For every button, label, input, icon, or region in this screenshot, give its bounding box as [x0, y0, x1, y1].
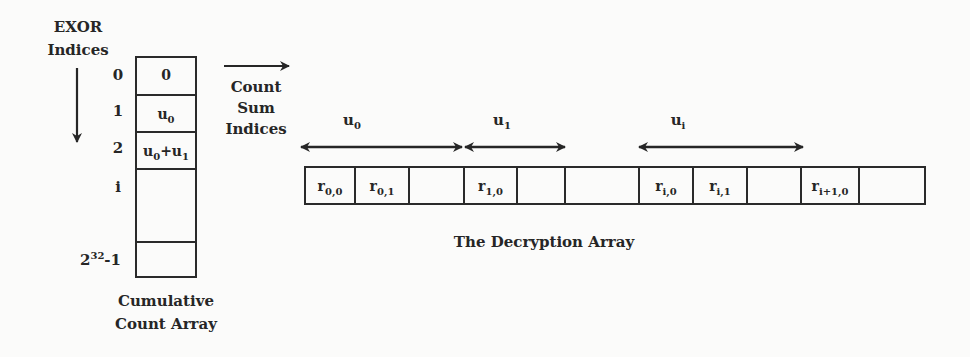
row-index-i: i	[115, 180, 121, 195]
decryption-cell: ri,1	[692, 168, 746, 203]
row-index-1: 1	[113, 104, 123, 119]
count-cell-2-value: u0+u1	[143, 143, 189, 159]
span-label-ui: ui	[671, 113, 686, 128]
decryption-array-caption: The Decryption Array	[454, 235, 634, 250]
row-index-2: 2	[113, 141, 123, 156]
decryption-cell	[858, 168, 924, 203]
span-label-u0: u0	[343, 113, 361, 128]
decryption-cell: r0,0	[304, 168, 356, 203]
count-cell-1-value: u0	[157, 106, 174, 122]
connector-line1: Count	[225, 80, 286, 95]
decryption-array: r0,0 r0,1 r1,0 ri,0 ri,1 ri+1,0	[304, 166, 926, 205]
decryption-cell: r1,0	[463, 168, 516, 203]
decryption-cell	[516, 168, 564, 203]
row-index-0: 0	[113, 68, 123, 83]
decryption-cell	[408, 168, 463, 203]
decryption-cell: ri,0	[638, 168, 692, 203]
decryption-cell-value: ri,1	[709, 178, 731, 194]
caption-line2: Count Array	[115, 317, 217, 332]
cumulative-count-array-caption: Cumulative Count Array	[115, 294, 217, 332]
connector-line2: Sum	[225, 101, 286, 116]
decryption-cell-value: r0,0	[318, 178, 343, 194]
row-index-last: 232-1	[80, 253, 121, 268]
exor-label-line1: EXOR	[47, 20, 108, 35]
count-cell-last	[137, 241, 195, 278]
decryption-cell-value: r1,0	[478, 178, 503, 194]
span-label-u1: u1	[493, 113, 511, 128]
decryption-cell	[564, 168, 638, 203]
cumulative-count-array: 0 u0 u0+u1	[135, 56, 197, 278]
count-cell-2: u0+u1	[137, 131, 195, 168]
count-cell-i	[137, 168, 195, 241]
count-cell-0-value: 0	[161, 67, 171, 83]
decryption-cell	[746, 168, 800, 203]
connector-line3: Indices	[225, 122, 286, 137]
decryption-cell-value: ri,0	[655, 178, 677, 194]
count-sum-indices-label: Count Sum Indices	[225, 80, 286, 137]
count-cell-1: u0	[137, 94, 195, 131]
count-cell-0: 0	[137, 56, 195, 94]
exor-label-line2: Indices	[47, 43, 108, 58]
decryption-cell: r0,1	[354, 168, 408, 203]
exor-indices-label: EXOR Indices	[47, 20, 108, 58]
decryption-cell-value: r0,1	[370, 178, 395, 194]
caption-line1: Cumulative	[115, 294, 217, 309]
decryption-cell-value: ri+1,0	[812, 178, 849, 194]
decryption-cell: ri+1,0	[800, 168, 858, 203]
